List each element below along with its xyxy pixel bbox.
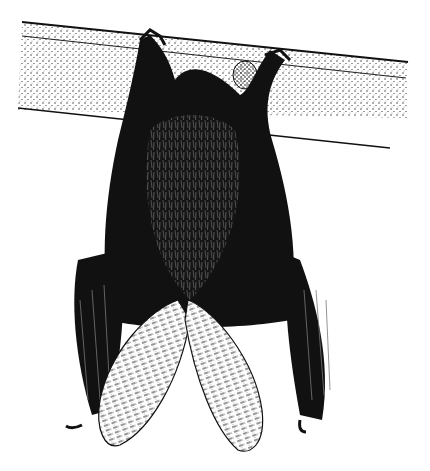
- illustration: [0, 0, 430, 471]
- bat-body: [105, 35, 294, 328]
